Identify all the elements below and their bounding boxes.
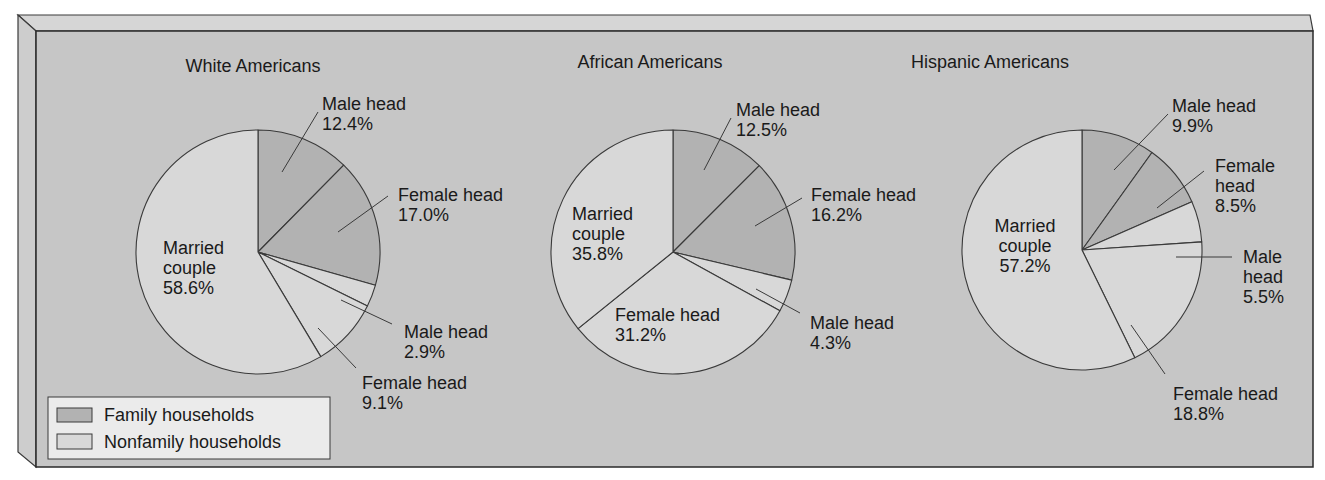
pie-title: Hispanic Americans — [911, 52, 1069, 72]
slice-label: Marriedcouple57.2% — [994, 216, 1055, 276]
legend: Family households Nonfamily households — [48, 397, 330, 459]
frame-top-bevel — [18, 15, 1313, 31]
pie-title: African Americans — [577, 52, 722, 72]
chart-figure: White AmericansMale head12.4%Female head… — [0, 0, 1325, 480]
chart-canvas: White AmericansMale head12.4%Female head… — [0, 0, 1325, 480]
legend-swatch-family — [57, 408, 92, 422]
frame-left-bevel — [18, 15, 36, 467]
legend-swatch-nonfamily — [57, 434, 92, 449]
pie-title: White Americans — [185, 56, 320, 76]
legend-label-nonfamily: Nonfamily households — [104, 432, 281, 452]
legend-label-family: Family households — [104, 405, 254, 425]
slice-label: Malehead5.5% — [1243, 247, 1284, 307]
